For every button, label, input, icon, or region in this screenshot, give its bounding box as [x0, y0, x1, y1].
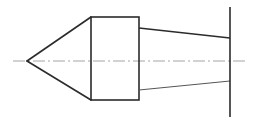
drawing-background	[0, 0, 257, 124]
technical-drawing-canvas	[0, 0, 257, 124]
technical-drawing-svg	[0, 0, 257, 124]
